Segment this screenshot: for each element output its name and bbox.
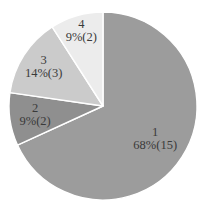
pie-chart: 168%(15)29%(2)314%(3)49%(2): [0, 0, 204, 207]
pie-chart-svg: 168%(15)29%(2)314%(3)49%(2): [0, 0, 204, 207]
slice-1-category-text: 1: [152, 125, 158, 139]
slice-4-category-text: 4: [78, 17, 85, 31]
slice-2-value-text: 9%(2): [19, 114, 50, 128]
slice-3-category-text: 3: [41, 53, 47, 67]
slice-2-category-text: 2: [32, 101, 38, 115]
slice-1-value-text: 68%(15): [133, 138, 177, 152]
slice-4-value-text: 9%(2): [66, 30, 97, 44]
slice-3-value-text: 14%(3): [25, 66, 63, 80]
